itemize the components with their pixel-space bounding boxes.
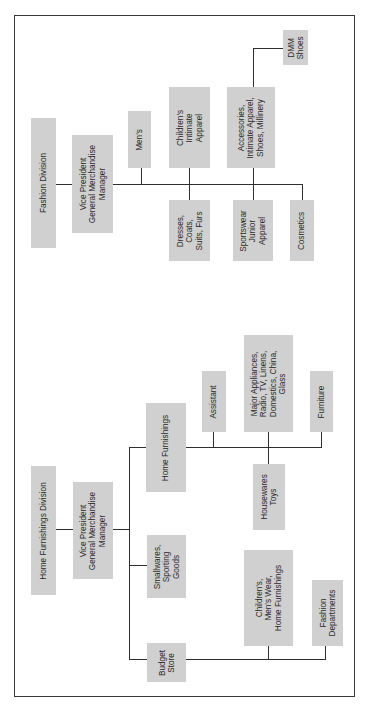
- connector-furniture: [321, 432, 322, 447]
- mens-box: Men's: [128, 111, 151, 168]
- budget-store-label: Budget Store: [157, 650, 176, 676]
- furniture-label: Furniture: [317, 385, 326, 418]
- connector-home-furnishings-branch: [186, 447, 322, 448]
- childrens-mens-home-box: Children's, Men's Wear, Home Furnishings: [244, 550, 293, 646]
- housewares-box: Housewares Toys: [253, 464, 285, 530]
- connector-fashion-departments: [325, 646, 326, 659]
- cosmetics-box: Cosmetics: [290, 200, 314, 261]
- housewares-label: Housewares Toys: [260, 474, 279, 520]
- fashion-division-box: Fashion Division: [31, 118, 56, 248]
- dmm-shoes-box: DMM Shoes: [283, 30, 308, 65]
- connector-cosmetics: [302, 184, 303, 200]
- home-vp-label: Vice President General Merchandise Manag…: [79, 491, 107, 569]
- home-vp-box: Vice President General Merchandise Manag…: [73, 482, 113, 579]
- fashion-departments-box: Fashion Departments: [312, 580, 343, 646]
- smallwares-label: Smallwares, Sporting Goods: [152, 544, 180, 589]
- home-division-label: Home Furnishings Division: [39, 482, 48, 579]
- fashion-division-label: Fashion Division: [39, 153, 48, 213]
- dresses-box: Dresses, Coats, Suits, Furs: [169, 200, 210, 261]
- connector-dmm-shoes: [253, 48, 283, 49]
- accessories-box: Accessories, Intimate Apparel, Shoes, Mi…: [227, 87, 275, 168]
- connector-fashion-division-vp: [56, 184, 72, 185]
- mens-label: Men's: [135, 129, 144, 151]
- cosmetics-label: Cosmetics: [297, 211, 306, 249]
- dresses-label: Dresses, Coats, Suits, Furs: [175, 211, 203, 250]
- sportswear-label: Sportswear Junior Apparel: [239, 210, 267, 251]
- dmm-shoes-label: DMM Shoes: [286, 36, 305, 59]
- sportswear-box: Sportswear Junior Apparel: [233, 200, 273, 261]
- assistant-label: Assistant: [209, 385, 218, 418]
- connector-accessories-dmm: [253, 48, 254, 87]
- fashion-departments-label: Fashion Departments: [318, 590, 337, 637]
- connector-childrens-intimate-dresses: [189, 168, 190, 200]
- accessories-label: Accessories, Intimate Apparel, Shoes, Mi…: [237, 97, 265, 158]
- connector-smallwares: [129, 565, 147, 566]
- connector-home-furnishings: [129, 447, 146, 448]
- connector-accessories-sportswear: [253, 168, 254, 200]
- childrens-intimate-box: Children's Intimate Apparel: [169, 87, 210, 168]
- fashion-vp-box: Vice President General Merchandise Manag…: [72, 135, 113, 233]
- major-appliances-box: Major Appliances, Radio, TV, Linens, Dom…: [244, 335, 293, 432]
- connector-major-appliances-housewares: [268, 432, 269, 464]
- connector-budget-branch: [186, 659, 326, 660]
- connector-assistant: [213, 432, 214, 447]
- connector-home-division-vp: [56, 529, 73, 530]
- furniture-box: Furniture: [310, 371, 333, 432]
- budget-store-box: Budget Store: [147, 643, 186, 682]
- home-furnishings-label: Home Furnishings: [161, 414, 170, 480]
- smallwares-box: Smallwares, Sporting Goods: [147, 535, 186, 598]
- connector-mens: [141, 168, 142, 184]
- childrens-mens-home-label: Children's, Men's Wear, Home Furnishings: [254, 565, 282, 631]
- connector-budget-store: [129, 659, 147, 660]
- childrens-intimate-label: Children's Intimate Apparel: [175, 109, 203, 145]
- major-appliances-label: Major Appliances, Radio, TV, Linens, Dom…: [250, 350, 288, 416]
- assistant-box: Assistant: [202, 371, 226, 432]
- connector-home-trunk: [129, 447, 130, 660]
- home-furnishings-box: Home Furnishings: [146, 403, 186, 492]
- connector-home-vp-trunk: [113, 529, 129, 530]
- connector-childrens-mens-home: [268, 646, 269, 659]
- fashion-vp-label: Vice President General Merchandise Manag…: [78, 145, 106, 223]
- connector-fashion-main-trunk: [113, 184, 302, 185]
- home-division-box: Home Furnishings Division: [31, 466, 56, 595]
